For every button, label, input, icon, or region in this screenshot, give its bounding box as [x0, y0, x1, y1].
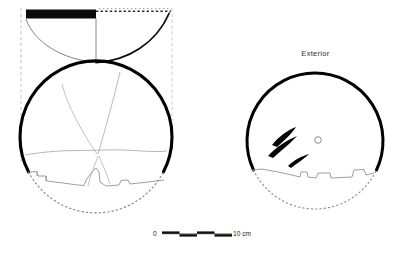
scale-seg-bottom-1 — [180, 234, 198, 236]
section-inner-wall-left — [26, 19, 96, 62]
section-outer-wall-right — [96, 12, 170, 62]
scale-seg-bottom-2 — [215, 234, 233, 236]
scale-bar-start-label: 0 — [153, 230, 157, 237]
interior-crack-line-1 — [62, 84, 97, 154]
interior-preserved-rim-arc — [20, 61, 172, 172]
vessel-illustration-svg — [0, 0, 401, 254]
scale-bar-end-label: 10 cm — [233, 230, 251, 237]
rim-section-solid-fill — [26, 10, 96, 19]
perforation-circle-outline — [315, 137, 322, 144]
scale-seg-top-1 — [162, 231, 180, 233]
section-wall-thick-right — [96, 14, 169, 63]
interior-plan-view — [20, 61, 172, 213]
interior-reconstruction-arc-dotted — [29, 172, 164, 213]
exterior-plan-view — [247, 73, 383, 209]
exterior-break-edge-stepped — [252, 169, 374, 178]
interior-break-edge-stepped — [30, 168, 164, 186]
exterior-reconstruction-arc-dotted — [254, 170, 377, 209]
interior-crack-line-2 — [98, 72, 120, 154]
scale-seg-top-2 — [197, 231, 215, 233]
interior-crack-line-4 — [99, 156, 110, 184]
scale-bar — [162, 231, 232, 236]
decoration-crescent-3 — [288, 154, 309, 168]
exterior-preserved-rim-arc — [247, 73, 383, 170]
archaeological-figure-plate: Exterior 0 10 cm — [0, 0, 401, 254]
